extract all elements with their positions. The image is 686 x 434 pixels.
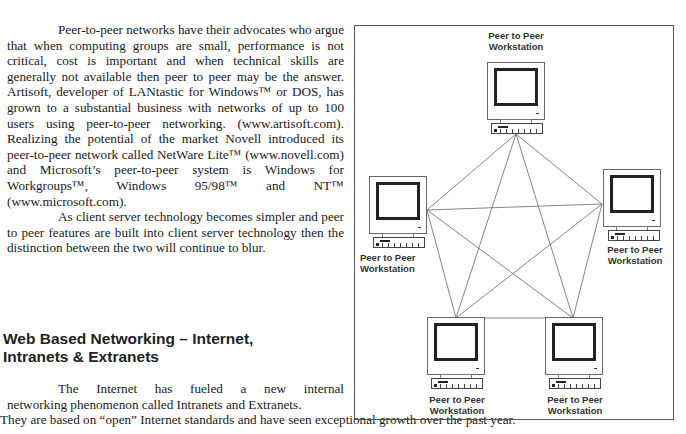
- system-unit-icon: [491, 123, 543, 134]
- paragraph-line-1: The Internet has fueled a new internal: [7, 381, 344, 397]
- paragraph-peer-to-peer-advocates: Peer-to-peer networks have their advocat…: [7, 22, 344, 209]
- label-line-1: Peer to Peer: [540, 394, 610, 405]
- monitor-icon: [487, 62, 545, 120]
- paragraph-internet-intro: The Internet has fueled a new internal n…: [7, 381, 344, 412]
- label-line-2: Workstation: [422, 405, 492, 416]
- label-line-2: Workstation: [360, 263, 415, 274]
- workstation-top-label: Peer to Peer Workstation: [481, 30, 551, 52]
- body-column: Peer-to-peer networks have their advocat…: [7, 22, 344, 256]
- system-unit-icon: [608, 230, 660, 241]
- label-line-1: Peer to Peer: [481, 30, 551, 41]
- paragraph-client-server-blur: As client server technology becomes simp…: [7, 209, 344, 256]
- label-line-1: Peer to Peer: [422, 394, 492, 405]
- peer-to-peer-diagram: Peer to Peer Workstation Peer to Peer Wo…: [354, 25, 674, 420]
- system-unit-icon: [373, 237, 425, 248]
- workstation-left-label: Peer to Peer Workstation: [360, 252, 415, 274]
- workstation-bottom-right-label: Peer to Peer Workstation: [540, 394, 610, 416]
- monitor-icon: [369, 176, 427, 234]
- section-heading: Web Based Networking – Internet, Intrane…: [3, 330, 303, 366]
- system-unit-icon: [431, 378, 483, 389]
- monitor-icon: [603, 169, 661, 227]
- document-page: Peer-to-peer networks have their advocat…: [0, 0, 686, 434]
- workstation-right-label: Peer to Peer Workstation: [605, 244, 665, 266]
- monitor-icon: [427, 317, 485, 375]
- label-line-1: Peer to Peer: [360, 252, 415, 263]
- paragraph-line-2: networking phenomenon called Intranets a…: [7, 397, 344, 413]
- system-unit-icon: [549, 378, 601, 389]
- label-line-2: Workstation: [540, 405, 610, 416]
- label-line-2: Workstation: [605, 255, 665, 266]
- label-line-1: Peer to Peer: [605, 244, 665, 255]
- label-line-2: Workstation: [481, 41, 551, 52]
- section-heading-line-2: Intranets & Extranets: [3, 348, 303, 366]
- monitor-icon: [545, 317, 603, 375]
- section-heading-line-1: Web Based Networking – Internet,: [3, 330, 303, 348]
- workstation-bottom-left-label: Peer to Peer Workstation: [422, 394, 492, 416]
